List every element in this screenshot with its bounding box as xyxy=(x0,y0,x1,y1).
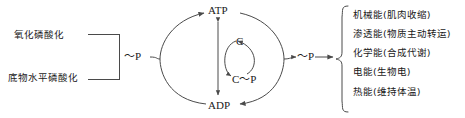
output-group-brace xyxy=(334,4,350,114)
phosphate-bond-label-right: ～P xyxy=(297,51,314,62)
connector-phosphate-to-cycle xyxy=(150,57,160,59)
output-label-thermal-energy: 热能(维持体温) xyxy=(353,87,420,97)
cycle-label-creatine-phosphate: C～P xyxy=(232,74,256,85)
arc-creatine-to-creatine-phosphate xyxy=(225,41,236,76)
output-list-item: 热能(维持体温) xyxy=(353,82,450,101)
arc-adp-to-atp xyxy=(160,13,206,104)
cycle-label-creatine: C xyxy=(236,36,243,47)
output-list-item: 电能(生物电) xyxy=(353,63,450,82)
cycle-label-atp: ATP xyxy=(208,5,228,16)
output-label-osmotic-energy: 渗透能(物质主动转运) xyxy=(353,29,450,39)
output-list-item: 渗透能(物质主动转运) xyxy=(353,24,450,43)
connector-cycle-to-output-phosphate xyxy=(284,57,296,59)
output-label-mechanical-energy: 机械能(肌肉收缩) xyxy=(353,10,430,20)
arc-atp-to-adp xyxy=(240,13,284,104)
output-list-item: 机械能(肌肉收缩) xyxy=(353,5,450,24)
output-list: 机械能(肌肉收缩) 渗透能(物质主动转运) 化学能(合成代谢) 电能(生物电) … xyxy=(353,5,450,101)
output-label-electrical-energy: 电能(生物电) xyxy=(353,67,410,77)
diagram-canvas: 氧化磷酸化 底物水平磷酸化 ～P ATP xyxy=(0,0,465,118)
output-label-chemical-energy: 化学能(合成代谢) xyxy=(353,48,430,58)
cycle-label-adp: ADP xyxy=(208,100,230,111)
output-list-item: 化学能(合成代谢) xyxy=(353,43,450,62)
